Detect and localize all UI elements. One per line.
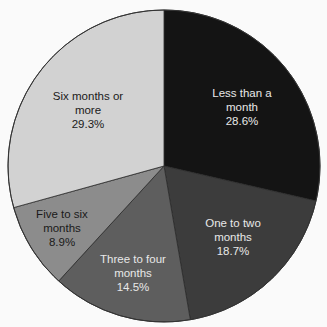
label-line: Less than a <box>187 86 297 100</box>
label-line: Six months or <box>33 89 143 103</box>
label-value: 18.7% <box>178 244 288 258</box>
label-value: 29.3% <box>33 117 143 131</box>
slice-label-three-to-four-months: Three to four months 14.5% <box>78 252 188 294</box>
label-line: months <box>7 221 117 235</box>
label-line: months <box>178 230 288 244</box>
label-line: months <box>78 266 188 280</box>
slice-label-six-months-or-more: Six months or more 29.3% <box>33 89 143 131</box>
slice-label-one-to-two-months: One to two months 18.7% <box>178 216 288 258</box>
label-value: 8.9% <box>7 235 117 249</box>
label-line: month <box>187 100 297 114</box>
slice-label-less-than-a-month: Less than a month 28.6% <box>187 86 297 128</box>
label-value: 14.5% <box>78 280 188 294</box>
label-line: Five to six <box>7 207 117 221</box>
label-value: 28.6% <box>187 114 297 128</box>
label-line: more <box>33 103 143 117</box>
label-line: One to two <box>178 216 288 230</box>
slice-label-five-to-six-months: Five to six months 8.9% <box>7 207 117 249</box>
label-line: Three to four <box>78 252 188 266</box>
pie-chart: Less than a month 28.6% One to two month… <box>0 0 327 327</box>
